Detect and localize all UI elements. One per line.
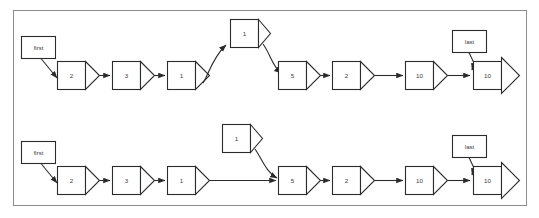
top-node-1: 3: [113, 62, 155, 90]
bottom-detached-node-value: 1: [235, 135, 239, 142]
top-first-label-text: first: [34, 45, 44, 51]
bottom-node-2-value: 1: [180, 177, 184, 184]
bottom-node-3: 5: [279, 167, 321, 195]
top-node-3: 5: [279, 62, 321, 90]
top-splice-in-arrow: [203, 45, 226, 83]
bottom-first-label-box: first: [22, 142, 56, 164]
linked-list-diagram: first 2 3 1: [0, 0, 539, 218]
top-node-5: 10: [406, 62, 448, 90]
top-node-6-value: 10: [484, 72, 491, 79]
top-node-2: 1: [168, 62, 210, 90]
bottom-row-group: first 2 3 1: [22, 125, 520, 199]
top-node-0: 2: [58, 62, 100, 90]
bottom-node-5-value: 10: [416, 177, 423, 184]
bottom-node-0-value: 2: [70, 177, 74, 184]
diagram-canvas: first 2 3 1: [0, 0, 539, 218]
top-node-5-value: 10: [416, 72, 423, 79]
top-last-label-text: last: [465, 39, 475, 45]
bottom-node-4: 2: [333, 167, 375, 195]
bottom-last-label-text: last: [465, 144, 475, 150]
bottom-node-0: 2: [58, 167, 100, 195]
top-last-label-box: last: [453, 31, 487, 53]
top-node-3-value: 5: [291, 72, 295, 79]
bottom-detached-node: 1: [223, 125, 263, 153]
top-node-4-value: 2: [345, 72, 349, 79]
top-row-group: first 2 3 1: [22, 20, 520, 94]
bottom-last-label-box: last: [453, 136, 487, 158]
top-node-1-value: 3: [125, 72, 129, 79]
bottom-node-6-value: 10: [484, 177, 491, 184]
top-node-0-value: 2: [70, 72, 74, 79]
bottom-node-2: 1: [168, 167, 210, 195]
top-first-pointer-arrow: [41, 59, 57, 79]
bottom-node-3-value: 5: [291, 177, 295, 184]
bottom-node-6: 10: [474, 163, 520, 199]
top-elevated-node-value: 1: [243, 30, 247, 37]
bottom-node-1: 3: [113, 167, 155, 195]
bottom-dangling-pointer-arrow: [255, 149, 277, 178]
top-node-4: 2: [333, 62, 375, 90]
bottom-first-label-text: first: [34, 150, 44, 156]
bottom-node-4-value: 2: [345, 177, 349, 184]
bottom-node-1-value: 3: [125, 177, 129, 184]
bottom-node-5: 10: [406, 167, 448, 195]
top-elevated-node: 1: [231, 20, 271, 48]
top-node-6: 10: [474, 58, 520, 94]
top-first-label-box: first: [22, 37, 56, 59]
bottom-first-pointer-arrow: [41, 164, 57, 184]
top-node-2-value: 1: [180, 72, 184, 79]
